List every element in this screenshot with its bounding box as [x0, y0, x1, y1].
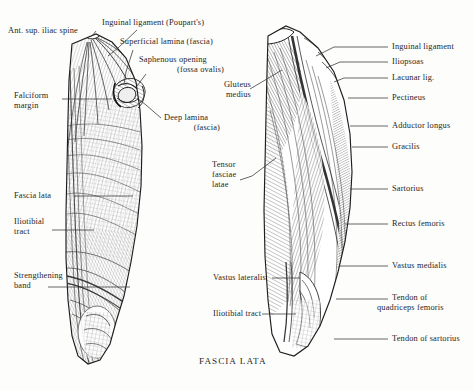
right-thigh-figure — [258, 20, 358, 380]
label-tensor-fasciae-latae: Tensor — [212, 160, 236, 170]
label-iliotibial-tract-left-l2: tract — [14, 227, 30, 237]
plate-caption: FASCIA LATA — [199, 356, 267, 366]
label-tendon-of-quadriceps-femoris: Tendon of — [392, 293, 427, 303]
leader-lacunar-lig — [334, 78, 388, 82]
label-vastus-lateralis: Vastus lateralis — [213, 273, 266, 283]
label-deep-lamina-fascia: Deep lamina — [164, 113, 208, 123]
label-lacunar-lig: Lacunar lig. — [392, 73, 434, 83]
label-gluteus-medius-l2: medius — [207, 90, 251, 100]
label-fascia-lata: Fascia lata — [14, 191, 51, 201]
label-ant-sup-iliac-spine: Ant. sup. iliac spine — [8, 26, 78, 36]
label-strengthening-band-l2: band — [14, 281, 31, 291]
label-strengthening-band: Strengthening — [14, 271, 63, 281]
leader-iliopsoas — [326, 62, 388, 68]
label-deep-lamina-fascia-line2: (fascia) — [164, 123, 220, 133]
label-pectineus: Pectineus — [392, 93, 425, 103]
label-falciform-margin-line2: margin — [14, 101, 38, 111]
label-sartorius: Sartorius — [392, 184, 424, 194]
label-gluteus-medius: Gluteus — [207, 80, 251, 90]
label-inguinal-ligament-poupart: Inguinal ligament (Poupart's) — [102, 18, 204, 28]
label-saphenous-opening-line2: (fossa ovalis) — [139, 65, 224, 75]
label-inguinal-ligament-right: Inguinal ligament — [392, 42, 454, 52]
label-iliotibial-tract-middle: Iliotibial tract — [213, 309, 261, 319]
label-tensor-fasciae-latae-l2: fasciae — [212, 170, 236, 180]
label-vastus-medialis: Vastus medialis — [392, 261, 447, 271]
leader-inguinal-ligament-right — [316, 47, 388, 56]
label-saphenous-opening: Saphenous opening — [139, 55, 207, 65]
label-superficial-lamina-fascia: Superficial lamina (fascia) — [120, 37, 213, 47]
anatomy-plate: Ant. sup. iliac spine Inguinal ligament … — [0, 0, 473, 391]
label-tendon-of-sartorius: Tendon of sartorius — [392, 334, 460, 344]
label-gracilis: Gracilis — [392, 142, 420, 152]
label-iliotibial-tract-left: Iliotibial — [14, 217, 44, 227]
label-adductor-longus: Adductor longus — [392, 121, 450, 131]
label-falciform-margin: Falciform — [14, 91, 48, 101]
label-tendon-of-quadriceps-femoris-l2: quadriceps femoris — [377, 303, 444, 313]
label-tensor-fasciae-latae-l3: latae — [212, 180, 229, 190]
label-rectus-femoris: Rectus femoris — [392, 219, 445, 229]
label-iliopsoas: Iliopsoas — [392, 57, 424, 67]
